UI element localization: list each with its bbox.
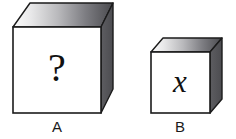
cube-a-label: A [14,119,100,134]
cube-a-top-face [13,3,113,27]
figure-canvas: ? x A B [0,0,236,139]
cube-b-front-glyph: x [152,66,208,97]
cube-b-label: B [152,119,208,134]
cube-b-right-face [210,38,222,113]
cube-a-front-glyph: ? [14,48,100,88]
